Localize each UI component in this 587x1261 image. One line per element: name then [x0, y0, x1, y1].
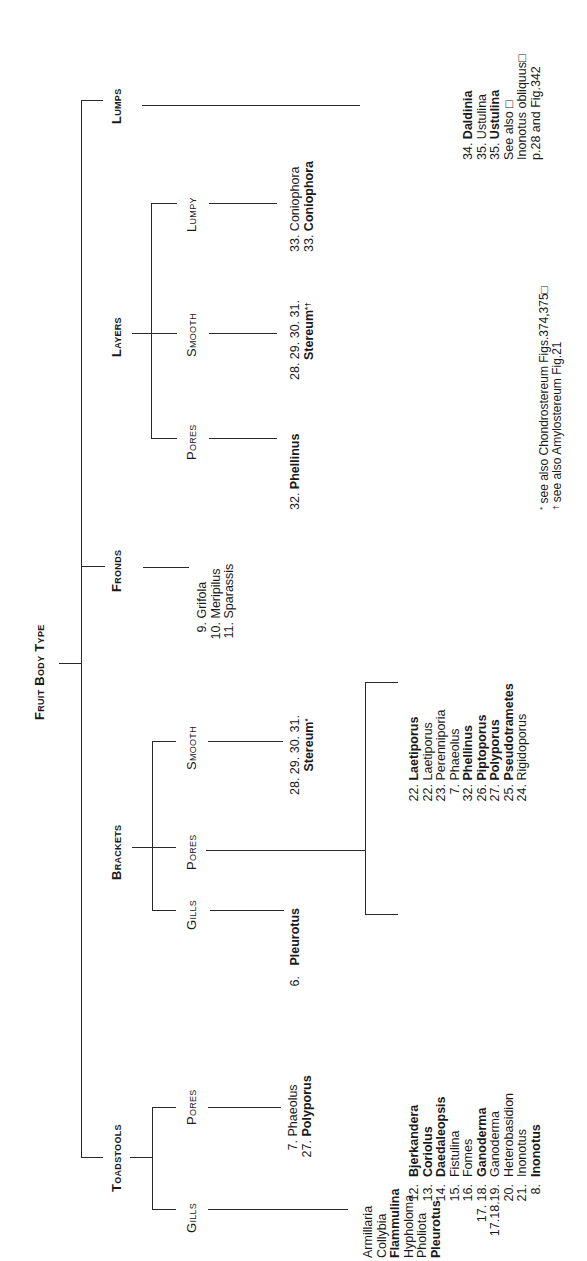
diagram-title: Fruit Body Type — [33, 624, 46, 720]
fig-number: 33. — [302, 235, 316, 252]
genus: Polyporus — [300, 1075, 314, 1136]
genus: Ganoderma — [488, 1111, 502, 1177]
genus: Phellinus — [461, 725, 475, 781]
fig-number: 6. — [289, 976, 303, 990]
layers-lumpy-line — [209, 203, 277, 204]
fig-number: 35. — [488, 143, 502, 160]
brackets-pores-list-a: 12. Bjerkandera 13. Coriolus 14. Daedale… — [408, 1093, 543, 1240]
root-connector — [59, 663, 81, 664]
toadstools-gills-label: Gills — [185, 1203, 198, 1233]
genus: Fomes — [461, 1139, 475, 1177]
fig-number: 14. — [435, 1184, 449, 1240]
category-brackets: Brackets — [110, 825, 123, 880]
toadstools-connector — [130, 1157, 152, 1158]
toadstools-pores-line — [208, 1107, 281, 1108]
genus: Laetiporus — [407, 717, 421, 781]
genus: Ganoderma — [475, 1108, 489, 1177]
genus: Bjerkandera — [407, 1105, 421, 1177]
fig-number: 15. — [449, 1184, 463, 1240]
layers-branch — [151, 203, 152, 439]
fronds-line — [143, 567, 189, 568]
fig-number: 35. — [475, 143, 489, 160]
stub-toadstools — [81, 1157, 103, 1158]
fig-number: 34. — [461, 143, 475, 160]
genus: Piptoporus — [475, 715, 489, 781]
category-layers: Layers — [110, 317, 123, 357]
fig-number: 8. — [530, 1184, 544, 1240]
fig-number: 20. — [503, 1184, 517, 1240]
fig-numbers: 28. 29. 30. 31. — [289, 715, 303, 795]
fig-number: 21. — [516, 1184, 530, 1240]
brackets-smooth-stub — [152, 741, 176, 742]
footnote-mark: *† — [303, 302, 312, 310]
brackets-gills-list: 6. Pleurotus — [289, 908, 303, 990]
fig-number: 25. — [503, 784, 517, 802]
genus: Daedaleopsis — [434, 1096, 448, 1177]
brackets-smooth-list: 28. 29. 30. 31. Stereum* — [289, 715, 316, 795]
genus: Meripilus — [209, 569, 223, 619]
fig-number: 32. — [288, 493, 302, 510]
layers-smooth-label: Smooth — [185, 313, 198, 357]
fig-number: 22. — [422, 784, 436, 802]
fig-number: 13. — [422, 1184, 436, 1240]
fig-number: 11. — [223, 622, 237, 640]
layers-pores-line — [209, 438, 277, 439]
see-also-line: See also □ — [503, 54, 517, 160]
toadstools-gills-line — [208, 1209, 348, 1210]
fig-number: 17. 18. — [476, 1184, 490, 1240]
genus: Flammulina — [389, 1189, 403, 1258]
footnote-text: see also Chondrostereum Figs.374,375□ — [537, 286, 551, 503]
layers-pores-stub — [151, 438, 177, 439]
layers-pores-label: Pores — [185, 424, 198, 460]
footnote-mark: † — [551, 506, 560, 510]
footnotes: * see also Chondrostereum Figs.374,375□ … — [538, 286, 564, 510]
genus: Polyporus — [488, 719, 502, 780]
brackets-smooth-label: Smooth — [185, 726, 198, 770]
main-trunk — [81, 100, 82, 1158]
genus: Phaeolus — [286, 1084, 300, 1136]
footnote-mark: * — [538, 507, 547, 510]
fig-number: 27. — [489, 784, 503, 802]
genus: Inonotus — [529, 1124, 543, 1177]
toadstools-gills-stub — [152, 1209, 176, 1210]
fig-number: 17.18.19. — [489, 1184, 503, 1240]
genus: Heterobasidion — [502, 1093, 516, 1177]
brackets-gills-label: Gills — [185, 900, 198, 930]
genus: Collybia — [376, 1189, 390, 1258]
brackets-pores-label: Pores — [185, 834, 198, 870]
fig-numbers: 28. 29. 30. 31. — [289, 300, 303, 380]
genus: Pleurotus — [288, 908, 302, 966]
genus: Stereum — [302, 310, 316, 360]
genus: Rigidoporus — [515, 714, 529, 781]
toadstools-pores-label: Pores — [185, 1089, 198, 1125]
genus: Perenniporia — [434, 710, 448, 781]
brackets-gills-stub — [152, 910, 176, 911]
genus: Fistulina — [448, 1131, 462, 1178]
see-also-line: p.28 and Fig.342 — [530, 54, 544, 160]
stub-lumps — [81, 100, 103, 101]
fig-number: 7. — [287, 1140, 301, 1160]
genus: Coriolus — [421, 1126, 435, 1177]
genus: Phaeolus — [448, 728, 462, 780]
toadstools-pores-list: 7. Phaeolus 27. Polyporus — [287, 1075, 314, 1160]
layers-lumpy-label: Lumpy — [185, 197, 198, 232]
genus: Ustulina — [488, 90, 502, 139]
fig-number: 24. — [516, 784, 530, 802]
fig-number: 23. — [435, 784, 449, 802]
genus: Inonotus — [515, 1129, 529, 1177]
footnote-mark: * — [303, 718, 312, 721]
brackets-pores-a-stub — [365, 914, 398, 915]
fig-number: 22. — [408, 784, 422, 802]
layers-lumpy-list: 33. Coniophora 33. Coniophora — [289, 161, 316, 252]
genus: Ustulina — [475, 94, 489, 139]
genus: Phellinus — [288, 434, 302, 490]
genus: Sparassis — [222, 564, 236, 619]
toadstools-branch — [152, 1107, 153, 1210]
brackets-gills-line — [210, 910, 284, 911]
brackets-pores-b-stub — [365, 682, 398, 683]
genus: Grifola — [195, 582, 209, 619]
layers-pores-list: 32. Phellinus — [289, 434, 303, 510]
fig-number: 26. — [476, 784, 490, 802]
fig-number: 10. — [210, 622, 224, 640]
footnote-text: see also Amylostereum Fig.21 — [550, 341, 564, 502]
